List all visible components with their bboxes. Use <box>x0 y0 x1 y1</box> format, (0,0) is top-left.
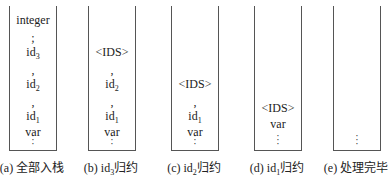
stack-a: integer;id3,id2,id1var··· <box>9 6 57 151</box>
ellipsis-marker: ··· <box>89 134 135 146</box>
stack-entry: <IDS> <box>89 46 135 58</box>
ellipsis-marker: ··· <box>334 134 380 146</box>
stack-entry: id3 <box>10 46 56 58</box>
ellipsis-marker: ··· <box>255 134 301 146</box>
stack-c: <IDS>,id1var··· <box>171 6 219 151</box>
stack-entry: id2 <box>10 78 56 90</box>
stack-entry: , <box>172 96 218 108</box>
stack-d: <IDS>var··· <box>254 6 302 151</box>
stack-entry: integer <box>10 14 56 26</box>
stack-e: ··· <box>333 6 381 151</box>
stack-entry: , <box>10 64 56 76</box>
stack-entry: <IDS> <box>172 78 218 90</box>
caption-b: (b) id3归约 <box>71 158 151 176</box>
caption-c: (c) id2归约 <box>154 158 234 176</box>
stack-entry: id1 <box>10 110 56 122</box>
caption-d: (d) id1归约 <box>237 158 317 176</box>
stack-entry: , <box>89 96 135 108</box>
ellipsis-marker: ··· <box>172 134 218 146</box>
stack-entry: ; <box>10 32 56 44</box>
caption-e: (e) 处理完毕 <box>316 158 392 176</box>
stack-entry: var <box>255 118 301 130</box>
ellipsis-marker: ··· <box>10 134 56 146</box>
stack-entry: <IDS> <box>255 102 301 114</box>
stack-entry: , <box>89 64 135 76</box>
stack-entry: id2 <box>89 78 135 90</box>
stack-entry: id1 <box>172 110 218 122</box>
caption-a: (a) 全部入栈 <box>0 158 72 176</box>
stack-entry: id1 <box>89 110 135 122</box>
stack-b: <IDS>,id2,id1var··· <box>88 6 136 151</box>
stack-entry: , <box>10 96 56 108</box>
